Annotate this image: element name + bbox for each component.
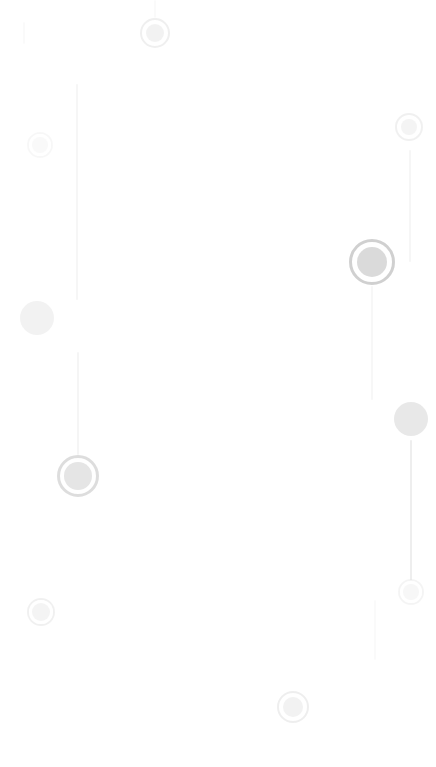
marker-core: [32, 603, 50, 621]
marker-core: [32, 137, 48, 153]
marker-core: [403, 584, 419, 600]
marker-core: [357, 247, 387, 277]
marker-bottom-center-icon[interactable]: [277, 691, 309, 723]
marker-left-blob-icon[interactable]: [20, 301, 54, 335]
marker-core: [401, 119, 417, 135]
route-left-lower: [77, 352, 78, 455]
marker-core: [283, 697, 303, 717]
map-canvas[interactable]: [0, 0, 436, 767]
marker-primary-left-icon[interactable]: [57, 455, 99, 497]
route-right-lower: [410, 440, 412, 580]
route-left-top-stub: [23, 22, 24, 44]
marker-top-right-icon[interactable]: [395, 113, 423, 141]
marker-bottom-left-icon[interactable]: [27, 598, 55, 626]
marker-primary-right-icon[interactable]: [349, 239, 395, 285]
route-center-right: [371, 286, 372, 400]
marker-core: [146, 24, 164, 42]
marker-core: [394, 402, 428, 436]
marker-top-center-icon[interactable]: [140, 18, 170, 48]
marker-core: [64, 462, 92, 490]
marker-core: [20, 301, 54, 335]
route-right-upper: [409, 150, 410, 262]
route-left-upper: [76, 84, 77, 300]
marker-right-lower-icon[interactable]: [398, 579, 424, 605]
route-top-center-stub: [154, 0, 155, 18]
marker-right-blob-icon[interactable]: [394, 402, 428, 436]
route-right-tail: [374, 600, 375, 660]
marker-top-left-faint-icon[interactable]: [27, 132, 53, 158]
